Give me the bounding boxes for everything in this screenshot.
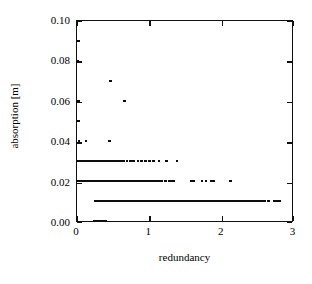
scatter-point [108, 140, 111, 143]
scatter-point [229, 180, 232, 183]
scatter-point [148, 160, 151, 163]
scatter-points-layer [77, 21, 292, 221]
x-tick-mark-3 [293, 216, 294, 221]
scatter-point [212, 180, 215, 183]
y-tick-mark-0.02 [77, 183, 82, 184]
scatter-point [144, 160, 147, 163]
x-axis-title: redundancy [76, 251, 293, 263]
scatter-point [263, 200, 266, 203]
scatter-point [123, 100, 126, 103]
y-tick-mark-0.08 [77, 61, 82, 62]
scatter-point [77, 120, 80, 123]
y-tick-label-4: 0.08 [51, 55, 70, 66]
scatter-point [129, 160, 132, 163]
scatter-point [267, 200, 270, 203]
y-tick-mark-0.04 [77, 142, 82, 143]
x-tick-mark-0 [77, 216, 78, 221]
x-tick-label-0: 0 [73, 226, 79, 237]
x-tick-label-2: 2 [218, 226, 224, 237]
y-tick-mark-right-0.10 [287, 21, 292, 22]
y-tick-mark-0.00 [77, 222, 82, 223]
scatter-point [193, 180, 196, 183]
scatter-point [278, 200, 281, 203]
y-tick-label-2: 0.04 [51, 136, 70, 147]
scatter-point [140, 160, 143, 163]
scatter-chart-figure: absorption [m] 0.00 0.02 0.04 0.06 0.08 … [0, 0, 312, 284]
scatter-point [158, 160, 161, 163]
scatter-point [152, 160, 155, 163]
scatter-point [137, 160, 140, 163]
scatter-point [176, 160, 179, 163]
y-tick-mark-right-0.06 [287, 102, 292, 103]
x-axis-tick-labels: 0 1 2 3 [76, 226, 293, 242]
x-tick-mark-2 [222, 216, 223, 221]
x-tick-label-3: 3 [290, 226, 296, 237]
y-tick-mark-right-0.00 [287, 222, 292, 223]
scatter-point [85, 160, 88, 163]
scatter-point [165, 160, 168, 163]
y-tick-mark-0.06 [77, 102, 82, 103]
x-tick-mark-top-3 [293, 21, 294, 26]
scatter-point [201, 180, 204, 183]
scatter-point [122, 160, 125, 163]
scatter-point [164, 180, 167, 183]
scatter-point [205, 180, 208, 183]
scatter-point [160, 180, 163, 183]
scatter-point [132, 160, 135, 163]
y-tick-label-5: 0.10 [51, 15, 70, 26]
scatter-point [126, 160, 129, 163]
x-tick-mark-top-2 [222, 21, 223, 26]
x-tick-mark-top-0 [77, 21, 78, 26]
x-tick-mark-1 [149, 216, 150, 221]
y-tick-label-3: 0.06 [51, 95, 70, 106]
y-axis-tick-labels: 0.00 0.02 0.04 0.06 0.08 0.10 [0, 20, 70, 222]
scatter-point [173, 180, 176, 183]
scatter-point [109, 80, 112, 83]
scatter-point [77, 40, 80, 43]
y-tick-mark-right-0.02 [287, 183, 292, 184]
scatter-point [104, 220, 107, 221]
y-tick-mark-right-0.04 [287, 142, 292, 143]
y-tick-label-1: 0.02 [51, 176, 70, 187]
y-tick-mark-right-0.08 [287, 61, 292, 62]
x-tick-mark-top-1 [149, 21, 150, 26]
x-tick-label-1: 1 [146, 226, 152, 237]
scatter-point [85, 140, 88, 143]
plot-area [76, 20, 293, 222]
y-tick-label-0: 0.00 [51, 217, 70, 228]
